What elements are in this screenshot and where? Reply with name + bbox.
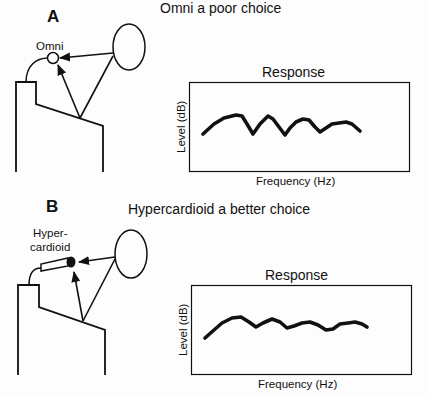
podium-a [16, 82, 103, 172]
reflection-arrow-b [74, 272, 83, 321]
chart-title-b: Response [265, 268, 328, 282]
chart-title-a: Response [262, 65, 325, 79]
reflection-arrow-a [58, 65, 80, 118]
xlabel-b: Frequency (Hz) [258, 379, 337, 391]
direct-sound-arrow-b [79, 257, 115, 262]
reflection-incoming-b [83, 259, 115, 321]
omni-mic-icon [48, 53, 59, 64]
mic-label-a: Omni [36, 40, 63, 53]
mic-label-b-line2: cardioid [30, 241, 70, 254]
panel-title-b: Hypercardioid a better choice [128, 202, 310, 216]
mic-cable-a [26, 58, 48, 82]
response-chart-frame-a [190, 83, 410, 172]
mic-cable-b [29, 268, 41, 285]
hypercardioid-mic-icon [41, 257, 76, 272]
diagram-graphics [0, 0, 427, 397]
response-curve-a [203, 115, 360, 135]
podium-b [18, 285, 105, 375]
panel-label-b: B [46, 198, 58, 215]
talker-head-a [113, 24, 145, 70]
xlabel-a: Frequency (Hz) [256, 176, 335, 188]
sound-paths-b [74, 257, 115, 321]
diagram-canvas: A Omni a poor choice Omni Response Frequ… [0, 0, 427, 397]
panel-title-a: Omni a poor choice [160, 1, 281, 15]
mic-label-b-line1: Hyper- [33, 227, 68, 240]
panel-label-a: A [47, 8, 59, 25]
response-curve-b [205, 317, 367, 338]
talker-head-b [115, 230, 147, 278]
reflection-incoming-a [80, 56, 113, 118]
direct-sound-arrow-a [60, 53, 113, 58]
ylabel-a: Level (dB) [176, 97, 188, 157]
sound-paths-a [58, 53, 113, 118]
ylabel-b: Level (dB) [178, 300, 190, 360]
response-chart-frame-b [192, 286, 412, 375]
